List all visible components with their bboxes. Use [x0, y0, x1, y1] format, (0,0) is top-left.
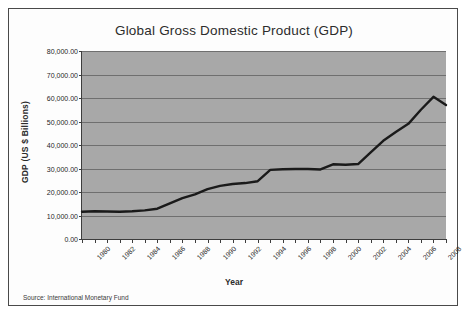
x-tick-mark [195, 239, 196, 243]
x-tick-label: 1998 [321, 245, 337, 261]
x-tick-mark [358, 239, 359, 243]
chart-page: Global Gross Domestic Product (GDP) GDP … [0, 0, 468, 316]
x-tick-label: 1994 [271, 245, 287, 261]
x-tick-mark [258, 239, 259, 243]
x-tick-mark [396, 239, 397, 243]
x-tick-mark [446, 239, 447, 243]
chart-frame: Global Gross Domestic Product (GDP) GDP … [8, 8, 458, 306]
x-axis-title: Year [9, 277, 459, 287]
x-tick-mark [295, 239, 296, 243]
y-tick-label: 30,000.00 [20, 165, 78, 172]
x-tick-mark [233, 239, 234, 243]
plot-area: 80,000.0070,000.0060,000.0050,000.0040,0… [81, 51, 446, 240]
x-tick-mark [220, 239, 221, 243]
series-line-gdp [82, 51, 446, 239]
x-tick-label: 1992 [246, 245, 262, 261]
x-tick-label: 1982 [121, 245, 137, 261]
x-tick-label: 1984 [146, 245, 162, 261]
plot-wrapper: 80,000.0070,000.0060,000.0050,000.0040,0… [81, 51, 445, 239]
x-tick-mark [333, 239, 334, 243]
x-tick-mark [346, 239, 347, 243]
x-tick-mark [170, 239, 171, 243]
y-tick-label: 0.00 [20, 236, 78, 243]
page-title: Global Gross Domestic Product (GDP) [9, 23, 459, 38]
x-tick-label: 1988 [196, 245, 212, 261]
x-tick-label: 2000 [347, 245, 363, 261]
x-tick-label: 1980 [96, 245, 112, 261]
y-tick-label: 60,000.00 [20, 95, 78, 102]
y-tick-label: 70,000.00 [20, 71, 78, 78]
x-tick-mark [421, 239, 422, 243]
x-tick-mark [120, 239, 121, 243]
x-tick-label: 2008 [447, 245, 463, 261]
y-tick-label: 80,000.00 [20, 48, 78, 55]
x-tick-mark [371, 239, 372, 243]
x-tick-label: 1990 [221, 245, 237, 261]
x-tick-mark [383, 239, 384, 243]
x-tick-mark [107, 239, 108, 243]
x-tick-mark [95, 239, 96, 243]
x-tick-mark [283, 239, 284, 243]
x-tick-mark [308, 239, 309, 243]
x-tick-mark [320, 239, 321, 243]
x-tick-mark [82, 239, 83, 243]
x-tick-label: 1986 [171, 245, 187, 261]
source-note: Source: International Monetary Fund [23, 294, 129, 301]
x-tick-mark [182, 239, 183, 243]
y-tick-label: 20,000.00 [20, 189, 78, 196]
x-tick-mark [270, 239, 271, 243]
x-tick-mark [157, 239, 158, 243]
y-tick-label: 10,000.00 [20, 212, 78, 219]
x-tick-label: 2002 [372, 245, 388, 261]
x-tick-mark [132, 239, 133, 243]
x-tick-mark [433, 239, 434, 243]
x-tick-mark [145, 239, 146, 243]
x-tick-label: 2004 [397, 245, 413, 261]
x-tick-label: 1996 [296, 245, 312, 261]
y-tick-label: 50,000.00 [20, 118, 78, 125]
x-tick-label: 2006 [422, 245, 438, 261]
x-tick-mark [208, 239, 209, 243]
x-tick-mark [408, 239, 409, 243]
x-tick-mark [245, 239, 246, 243]
y-tick-label: 40,000.00 [20, 142, 78, 149]
